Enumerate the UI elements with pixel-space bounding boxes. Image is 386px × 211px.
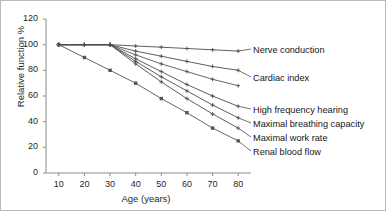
series-marker: [108, 69, 111, 72]
series-marker: [134, 53, 138, 57]
y-tick-label: 120: [12, 13, 38, 23]
series-marker: [185, 89, 189, 93]
series-marker: [134, 44, 138, 48]
series-marker: [57, 43, 60, 46]
series-marker: [82, 43, 86, 47]
series-marker: [211, 77, 215, 81]
series-marker: [159, 54, 163, 58]
x-tick-label: 50: [150, 179, 172, 189]
series-label-maximal-breathing-capacity: Maximal breathing capacity: [253, 119, 364, 129]
leader-line: [238, 118, 251, 123]
series-line: [59, 45, 238, 118]
y-tick-label: 20: [12, 141, 38, 151]
series-marker: [83, 56, 86, 59]
leader-line: [238, 106, 251, 109]
series-marker: [211, 65, 215, 69]
x-tick-label: 40: [125, 179, 147, 189]
x-tick-label: 20: [73, 179, 95, 189]
series-marker: [236, 84, 240, 88]
series-marker: [159, 45, 163, 49]
y-tick-label: 100: [12, 39, 38, 49]
series-marker: [211, 94, 215, 98]
series-marker: [159, 62, 163, 66]
x-tick-label: 70: [202, 179, 224, 189]
axis-lines: [46, 19, 251, 173]
series-marker: [159, 70, 163, 74]
leader-line: [238, 70, 251, 77]
x-tick-label: 60: [176, 179, 198, 189]
series-marker: [185, 59, 189, 63]
series-label-cardiac-index: Cardiac index: [253, 73, 309, 83]
x-tick-label: 10: [48, 179, 70, 189]
leader-line: [238, 141, 251, 151]
series-label-nerve-conduction: Nerve conduction: [253, 45, 325, 55]
data-series-group: [57, 43, 240, 143]
y-tick-label: 80: [12, 64, 38, 74]
series-marker: [185, 47, 189, 51]
y-tick-label: 60: [12, 90, 38, 100]
series-marker: [159, 75, 163, 79]
series-marker: [185, 70, 189, 74]
series-marker: [211, 112, 215, 116]
x-tick-label: 80: [227, 179, 249, 189]
y-tick-label: 0: [12, 167, 38, 177]
series-marker: [160, 97, 163, 100]
series-marker: [211, 103, 215, 107]
leader-line: [238, 49, 251, 51]
label-leader-lines: [238, 49, 251, 151]
leader-line: [238, 128, 251, 137]
series-marker: [185, 83, 189, 87]
series-marker: [134, 82, 137, 85]
series-marker: [185, 111, 188, 114]
figure-container: Relative function % Age (years) 12010080…: [0, 0, 386, 211]
series-label-high-frequency-hearing: High frequency hearing: [253, 105, 348, 115]
series-label-renal-blood-flow: Renal blood flow: [253, 147, 321, 157]
x-axis-title: Age (years): [56, 193, 236, 204]
series-marker: [134, 49, 138, 53]
x-tick-label: 30: [99, 179, 121, 189]
series-label-maximal-work-rate: Maximal work rate: [253, 133, 328, 143]
series-marker: [211, 126, 214, 129]
series-marker: [211, 48, 215, 52]
y-tick-label: 40: [12, 116, 38, 126]
